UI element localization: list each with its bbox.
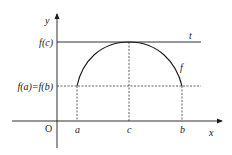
origin-label: O [45,123,52,134]
tick-label-c: c [127,124,132,135]
tick-label-b: b [180,124,185,135]
tangent-label: t [189,30,192,41]
rolle-diagram: y x O a c b f(c) f(a)=f(b) t f [0,0,232,155]
tick-label-fa-fb: f(a)=f(b) [17,81,53,93]
curve-f [77,42,182,86]
tick-label-fc: f(c) [39,37,54,49]
tick-label-a: a [75,124,80,135]
curve-label: f [180,62,184,73]
x-axis-label: x [208,127,214,138]
y-axis-label: y [44,15,50,26]
